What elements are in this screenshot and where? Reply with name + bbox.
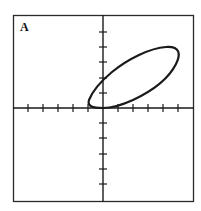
loop-plot [0,0,201,211]
panel-label: A [20,20,29,35]
